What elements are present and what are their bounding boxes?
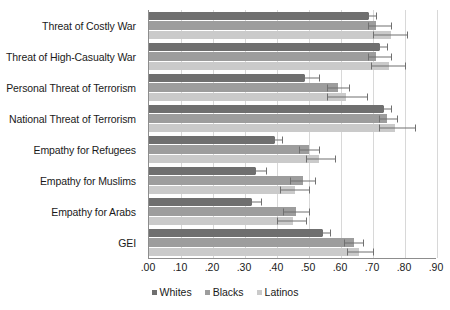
bar-row — [149, 155, 437, 164]
bar-group — [149, 103, 437, 134]
category-label: Empathy for Refugees — [0, 134, 142, 165]
bar-row — [149, 145, 437, 154]
error-bar-cap — [304, 75, 305, 82]
error-bar — [322, 233, 330, 234]
bar-group — [149, 227, 437, 258]
bar — [149, 52, 376, 61]
category-label: GEI — [0, 227, 142, 258]
error-bar-cap — [327, 94, 328, 101]
bar-row — [149, 12, 437, 21]
bar — [149, 167, 255, 176]
x-axis-tick-labels: .00.10.20.30.40.50.60.70.80.90 — [148, 261, 436, 277]
error-bar — [304, 78, 318, 79]
bar-chart: Threat of Costly WarThreat of High-Casua… — [0, 0, 450, 310]
legend-item: Blacks — [205, 286, 244, 298]
error-bar — [280, 190, 309, 191]
bar-group — [149, 41, 437, 72]
error-bar-cap — [255, 168, 256, 175]
error-bar-cap — [290, 177, 291, 184]
x-tick-label: .50 — [301, 261, 316, 273]
bar-row — [149, 83, 437, 92]
bar-group — [149, 165, 437, 196]
error-bar-cap — [373, 32, 374, 39]
error-bar — [368, 16, 376, 17]
legend-swatch-icon — [205, 290, 210, 295]
error-bar — [373, 35, 407, 36]
error-bar-cap — [376, 13, 377, 20]
legend-label: Whites — [160, 286, 192, 298]
error-bar — [255, 171, 266, 172]
bar — [149, 145, 309, 154]
bar-group — [149, 72, 437, 103]
error-bar — [327, 97, 367, 98]
error-bar-cap — [368, 13, 369, 20]
error-bar-cap — [379, 125, 380, 132]
error-bar-cap — [397, 115, 398, 122]
bar-row — [149, 114, 437, 123]
error-bar-cap — [299, 146, 300, 153]
bar-row — [149, 43, 437, 52]
error-bar — [277, 221, 306, 222]
bar-group — [149, 196, 437, 227]
x-axis-line — [148, 258, 436, 259]
error-bar-cap — [383, 106, 384, 113]
bar — [149, 248, 359, 257]
category-label: Personal Threat of Terrorism — [0, 72, 142, 103]
bar — [149, 114, 387, 123]
error-bar-cap — [280, 187, 281, 194]
bar — [149, 229, 322, 238]
x-tick-label: .20 — [205, 261, 220, 273]
error-bar-cap — [415, 125, 416, 132]
bar-row — [149, 186, 437, 195]
category-label: National Threat of Terrorism — [0, 103, 142, 134]
error-bar-cap — [347, 249, 348, 256]
category-label: Empathy for Muslims — [0, 165, 142, 196]
error-bar-cap — [363, 239, 364, 246]
error-bar-cap — [371, 63, 372, 70]
error-bar — [306, 159, 335, 160]
category-label: Threat of High-Casualty War — [0, 41, 142, 72]
bar — [149, 74, 304, 83]
bar — [149, 43, 379, 52]
error-bar-cap — [391, 106, 392, 113]
error-bar-cap — [319, 75, 320, 82]
error-bar-cap — [391, 53, 392, 60]
error-bar — [327, 87, 349, 88]
error-bar-cap — [283, 208, 284, 215]
error-bar-cap — [407, 32, 408, 39]
error-bar-cap — [282, 137, 283, 144]
category-axis-labels: Threat of Costly WarThreat of High-Casua… — [0, 10, 142, 258]
legend-item: Whites — [152, 286, 192, 298]
error-bar-cap — [327, 84, 328, 91]
bar-row — [149, 52, 437, 61]
legend-label: Latinos — [265, 286, 299, 298]
error-bar — [368, 25, 390, 26]
error-bar-cap — [335, 156, 336, 163]
error-bar — [371, 66, 405, 67]
x-tick-label: .60 — [333, 261, 348, 273]
bar-row — [149, 93, 437, 102]
error-bar-cap — [261, 199, 262, 206]
bar — [149, 124, 395, 133]
legend-swatch-icon — [257, 290, 262, 295]
bar — [149, 31, 391, 40]
error-bar — [379, 118, 397, 119]
error-bar — [283, 211, 309, 212]
bar — [149, 207, 296, 216]
error-bar-cap — [315, 177, 316, 184]
error-bar-cap — [368, 22, 369, 29]
error-bar-cap — [387, 44, 388, 51]
bar-row — [149, 21, 437, 30]
error-bar — [251, 202, 261, 203]
category-label: Threat of Costly War — [0, 10, 142, 41]
error-bar — [368, 56, 390, 57]
error-bar-cap — [274, 137, 275, 144]
x-tick-label: .80 — [397, 261, 412, 273]
error-bar-cap — [251, 199, 252, 206]
error-bar-cap — [367, 94, 368, 101]
error-bar-cap — [405, 63, 406, 70]
bar — [149, 186, 295, 195]
x-tick-label: .70 — [365, 261, 380, 273]
error-bar-cap — [368, 53, 369, 60]
error-bar — [379, 128, 414, 129]
